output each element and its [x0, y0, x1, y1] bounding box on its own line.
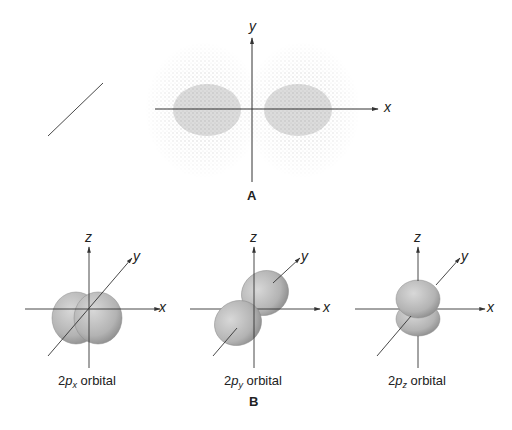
panel-a-y-label: y	[249, 18, 256, 34]
2py-orbital-label: 2py orbital	[224, 373, 282, 390]
2py-x-label: x	[323, 299, 330, 315]
2px-x-label: x	[159, 299, 166, 315]
2px-y-label: y	[133, 248, 140, 264]
orbital-2px-diagram	[25, 83, 160, 368]
lobe-positive-z	[396, 280, 440, 318]
panel-a-density-plot	[140, 35, 378, 190]
orbital-diagram	[0, 0, 512, 430]
2px-orbital-label: 2px orbital	[58, 373, 116, 390]
2pz-y-label: y	[461, 248, 468, 264]
2pz-x-label: x	[487, 299, 494, 315]
y-axis-back	[48, 83, 103, 136]
2px-z-label: z	[85, 229, 92, 245]
lobe-positive-x	[74, 292, 122, 344]
orbital-2pz-diagram	[355, 247, 485, 368]
y-axis	[436, 258, 460, 285]
2py-y-label: y	[301, 248, 308, 264]
y-axis	[273, 258, 300, 283]
panel-a-x-label: x	[384, 99, 391, 115]
2pz-orbital-label: 2pz orbital	[388, 373, 446, 390]
panel-a-label: A	[247, 188, 256, 203]
2pz-z-label: z	[414, 229, 421, 245]
panel-b-label: B	[249, 394, 258, 409]
orbital-2py-diagram	[190, 247, 320, 368]
2py-z-label: z	[250, 229, 257, 245]
